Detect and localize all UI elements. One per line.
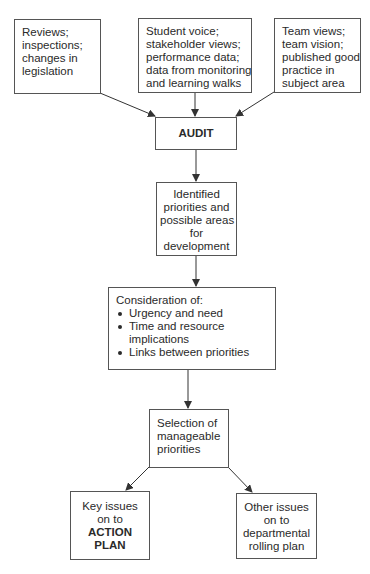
audit-box: AUDIT <box>155 117 237 150</box>
bullet-text: implications <box>129 333 268 346</box>
box-text: Other issues <box>240 501 313 514</box>
box-text: practice in <box>282 64 353 77</box>
box-text: subject area <box>282 77 353 90</box>
audit-label: AUDIT <box>178 127 213 140</box>
box-text: Identified <box>160 188 233 201</box>
box-text: for <box>160 227 233 240</box>
list-item: Links between priorities <box>116 346 268 359</box>
box-text: performance data; <box>146 51 244 64</box>
box-text: inspections; <box>22 39 93 52</box>
bullet-text: Urgency and need <box>129 307 268 320</box>
input-box-team-views: Team views; team vision; published good … <box>274 18 361 93</box>
box-text: priorities and <box>160 201 233 214</box>
box-text: Selection of <box>157 417 221 430</box>
box-text: on to <box>240 514 313 527</box>
box-text: Team views; <box>282 25 353 38</box>
box-text: Student voice; <box>146 25 244 38</box>
consideration-box: Consideration of: Urgency and need Time … <box>108 287 276 370</box>
input-box-reviews: Reviews; inspections; changes in legisla… <box>14 19 101 94</box>
list-item: Urgency and need <box>116 307 268 320</box>
box-text: manageable <box>157 430 221 443</box>
box-text: rolling plan <box>240 540 313 553</box>
box-text: published good <box>282 51 353 64</box>
input-box-student-voice: Student voice; stakeholder views; perfor… <box>138 18 252 93</box>
bullet-text: Links between priorities <box>129 346 268 359</box>
box-text: stakeholder views; <box>146 38 244 51</box>
rolling-plan-box: Other issues on to departmental rolling … <box>236 493 317 559</box>
box-text: and learning walks <box>146 77 244 90</box>
box-text: legislation <box>22 65 93 78</box>
box-text: Key issues <box>74 500 146 513</box>
box-text: data from monitoring <box>146 64 244 77</box>
action-plan-label: ACTION <box>74 526 146 539</box>
box-text: team vision; <box>282 38 353 51</box>
box-text: possible areas <box>160 214 233 227</box>
box-text: Reviews; <box>22 26 93 39</box>
identified-priorities-box: Identified priorities and possible areas… <box>156 182 237 256</box>
box-text: development <box>160 240 233 253</box>
arrow-reviews-to-audit <box>100 93 155 116</box>
consideration-heading: Consideration of: <box>116 294 268 307</box>
selection-box: Selection of manageable priorities <box>149 409 229 468</box>
action-plan-label: PLAN <box>74 539 146 552</box>
box-text: departmental <box>240 527 313 540</box>
action-plan-box: Key issues on to ACTION PLAN <box>70 491 150 560</box>
arrow-selection-to-action-plan <box>126 467 149 490</box>
arrow-team-to-audit <box>236 92 274 116</box>
box-text: on to <box>74 513 146 526</box>
arrow-selection-to-rolling-plan <box>228 467 252 492</box>
box-text: priorities <box>157 443 221 456</box>
box-text: changes in <box>22 52 93 65</box>
bullet-text: Time and resource <box>129 320 268 333</box>
list-item: Time and resource implications <box>116 320 268 346</box>
consideration-list: Urgency and need Time and resource impli… <box>116 307 268 359</box>
